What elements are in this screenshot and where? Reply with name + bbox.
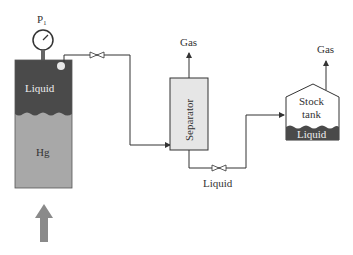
pvt-cell: Liquid Hg xyxy=(15,60,72,188)
pipe-to-separator xyxy=(64,55,170,145)
separator-gas-label: Gas xyxy=(180,36,197,48)
separator-liquid-label: Liquid xyxy=(203,177,233,189)
cell-liquid-label: Liquid xyxy=(25,82,55,94)
gauge-label: P₁ xyxy=(37,13,47,25)
stock-tank: Stock tank Liquid Gas xyxy=(286,43,339,140)
stock-tank-gas-label: Gas xyxy=(317,43,334,55)
stock-tank-liquid-label: Liquid xyxy=(297,128,327,140)
pressure-gauge: P₁ xyxy=(33,13,53,60)
stock-tank-label-line1: Stock xyxy=(299,95,325,107)
cell-hg-label: Hg xyxy=(36,146,50,158)
separator-label: Separator xyxy=(183,99,195,141)
diagram: P₁ Liquid Hg Separator Gas Liquid Sto xyxy=(0,0,353,255)
valve-icon xyxy=(90,52,104,58)
piston-up-arrow-icon xyxy=(35,204,53,242)
separator: Separator Gas xyxy=(170,36,208,150)
valve-icon xyxy=(212,165,226,171)
stock-tank-label-line2: tank xyxy=(302,108,321,120)
